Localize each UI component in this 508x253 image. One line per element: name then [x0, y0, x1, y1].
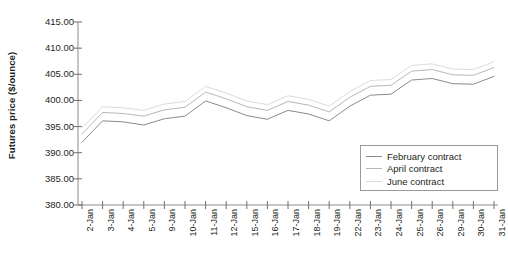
x-axis-tick-label: 19-Jan: [333, 209, 342, 237]
legend-swatch-february: [366, 156, 382, 157]
x-axis-tick-label: 18-Jan: [313, 209, 322, 237]
y-axis-tick-label: 415.00: [45, 17, 74, 27]
x-axis-tick-label: 2-Jan: [86, 209, 95, 232]
x-axis-tick-label: 31-Jan: [498, 209, 507, 237]
legend-item-june: June contract: [366, 175, 491, 188]
x-axis-tick-label: 25-Jan: [416, 209, 425, 237]
x-axis-tick-label: 4-Jan: [127, 209, 136, 232]
x-axis-tick-label: 23-Jan: [374, 209, 383, 237]
legend-item-april: April contract: [366, 163, 491, 176]
x-axis-tick-label: 26-Jan: [436, 209, 445, 237]
y-axis-tick-label: 400.00: [45, 96, 74, 106]
x-axis-tick-label: 11-Jan: [210, 209, 219, 236]
x-axis-tick-label: 3-Jan: [107, 209, 116, 232]
x-axis-tick-label: 9-Jan: [168, 209, 177, 232]
y-axis-title-wrap: Futures price ($/ounce): [2, 0, 22, 210]
x-axis-tick-label: 16-Jan: [271, 209, 280, 237]
y-axis-tick-labels: 415.00410.00405.00400.00395.00390.00385.…: [22, 0, 74, 215]
x-axis-tick-label: 22-Jan: [354, 209, 363, 237]
series-line-june: [82, 62, 494, 128]
x-axis-tick-label: 5-Jan: [148, 209, 157, 232]
legend-label-february: February contract: [387, 151, 461, 162]
legend-label-april: April contract: [387, 163, 442, 174]
legend-item-february: February contract: [366, 150, 491, 163]
legend-swatch-april: [366, 168, 382, 169]
x-axis-tick-labels: 2-Jan3-Jan4-Jan5-Jan9-Jan10-Jan11-Jan12-…: [78, 209, 508, 253]
y-axis-tick-label: 395.00: [45, 122, 74, 132]
x-axis-tick-label: 17-Jan: [292, 209, 301, 237]
x-axis-tick-label: 15-Jan: [251, 209, 260, 237]
y-axis-tick-label: 405.00: [45, 70, 74, 80]
series-line-february: [82, 76, 494, 142]
y-axis-tick-label: 390.00: [45, 148, 74, 158]
series-line-april: [82, 67, 494, 133]
y-axis-tick-label: 410.00: [45, 43, 74, 53]
y-axis-tick-label: 380.00: [45, 200, 74, 210]
x-axis-tick-label: 30-Jan: [477, 209, 486, 237]
x-axis-tick-label: 12-Jan: [230, 209, 239, 237]
x-axis-tick-label: 29-Jan: [457, 209, 466, 237]
x-axis-tick-label: 24-Jan: [395, 209, 404, 237]
y-axis-title: Futures price ($/ounce): [7, 51, 18, 158]
chart-legend: February contract April contract June co…: [360, 145, 498, 191]
legend-label-june: June contract: [387, 176, 444, 187]
x-axis-tick-label: 10-Jan: [189, 209, 198, 237]
y-axis-tick-label: 385.00: [45, 174, 74, 184]
legend-swatch-june: [366, 181, 382, 182]
